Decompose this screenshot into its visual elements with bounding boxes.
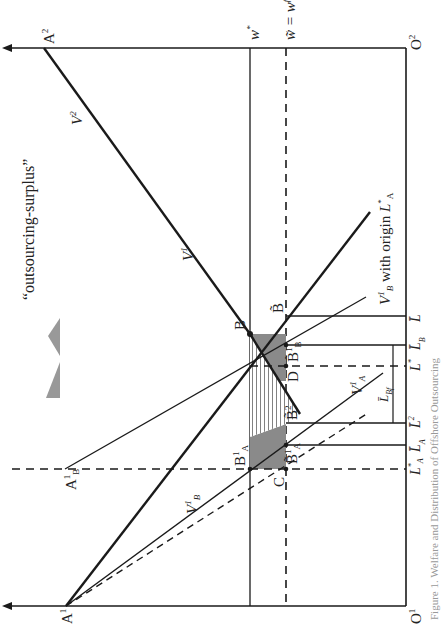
label-a1: A1	[58, 609, 75, 624]
label-w-star: w*	[245, 25, 262, 40]
label-lbf: L̄Bf	[376, 386, 394, 403]
figure-caption: Figure 1. Welfare and Distribution of Of…	[428, 357, 440, 620]
label-b-tilde: B̃	[270, 303, 286, 313]
label-o2: O2	[407, 35, 424, 50]
point-b1a	[248, 467, 253, 472]
axis-label-lbar-a: L̄A	[408, 439, 427, 453]
axis-label-lbar-2: L̄2	[407, 416, 423, 429]
diagram-canvas: “outsourcing-surplus” A2 A1 O2 O1 w* w̃ …	[0, 0, 442, 629]
label-v2: V2	[68, 111, 85, 125]
label-v1b-dashed: V1B	[183, 494, 202, 514]
arrow-left-bottom-icon	[2, 602, 12, 610]
v2-curve	[44, 48, 250, 334]
point-b-tilde-1a	[284, 443, 289, 448]
label-b1a: B1A	[231, 444, 250, 466]
label-o1: O1	[407, 609, 424, 624]
label-v1a: V1A	[348, 375, 367, 395]
point-c	[284, 467, 289, 472]
label-c: C	[271, 477, 287, 487]
axis-label-la-star: L*A	[407, 458, 425, 476]
label-w-tilde: w̃ = wf	[281, 0, 298, 40]
point-b-tilde-1b	[284, 343, 289, 348]
v1a-curve	[66, 373, 383, 606]
v1-curve	[66, 212, 370, 606]
arrow-left-top-icon	[2, 44, 12, 52]
axis-label-l-star: L*	[407, 359, 423, 372]
axes	[6, 48, 406, 606]
label-v1: V1	[179, 247, 196, 261]
label-d: D	[285, 371, 301, 382]
label-a1b: A1B	[62, 469, 81, 490]
legend-swatch-icon	[46, 318, 60, 398]
label-b: B	[232, 320, 248, 330]
label-v1b-origin: V1B with origin L*A	[376, 192, 395, 305]
axis-label-lbar: L̄	[408, 314, 423, 323]
point-b	[247, 331, 253, 337]
legend-label: “outsourcing-surplus”	[20, 159, 38, 300]
label-a2: A2	[40, 29, 57, 44]
point-d	[284, 364, 289, 369]
